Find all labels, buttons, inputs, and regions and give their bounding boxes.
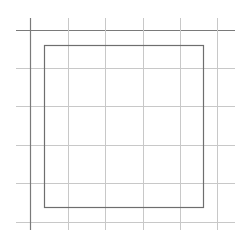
- grid-lines: [16, 18, 235, 230]
- grid-diagram: [0, 0, 247, 248]
